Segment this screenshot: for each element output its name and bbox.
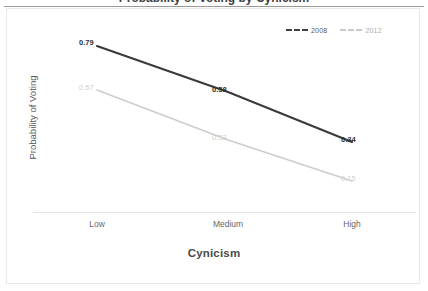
x-axis-line	[33, 212, 416, 213]
x-tick-label-medium: Medium	[183, 219, 273, 229]
x-tick-label-low: Low	[52, 219, 142, 229]
y-axis-title: Probability of Voting	[27, 43, 38, 193]
x-tick-label-high: High	[307, 219, 397, 229]
chart-legend: 2008 2012	[286, 23, 382, 37]
data-label-2008-medium: 0.58	[212, 85, 227, 94]
legend-label-2012: 2012	[365, 27, 381, 34]
x-axis-title: Cynicism	[0, 247, 428, 259]
data-label-2012-high: 0.15	[341, 174, 356, 183]
chart-figure: Probability of Voting by Cynicism 2008 2…	[0, 0, 428, 291]
data-label-2008-high: 0.34	[341, 135, 356, 144]
title-divider	[4, 6, 424, 7]
legend-dash-2008	[286, 29, 308, 31]
legend-dash-2012	[340, 29, 362, 31]
legend-item-2012[interactable]: 2012	[340, 27, 381, 34]
chart-plot-frame	[6, 8, 420, 284]
legend-item-2008[interactable]: 2008	[286, 27, 327, 34]
legend-label-2008: 2008	[311, 27, 327, 34]
data-label-2008-low: 0.79	[79, 38, 94, 47]
chart-title: Probability of Voting by Cynicism	[0, 0, 428, 5]
data-label-2012-medium: 0.33	[212, 133, 227, 142]
data-label-2012-low: 0.57	[79, 83, 94, 92]
